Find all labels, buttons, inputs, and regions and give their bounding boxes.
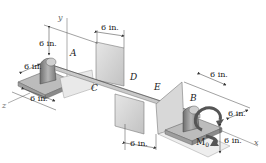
z-axis: z (1, 93, 30, 110)
point-c-label: C (91, 83, 98, 93)
svg-text:6 in.: 6 in. (130, 139, 148, 148)
svg-text:6 in.: 6 in. (101, 23, 119, 32)
svg-text:6 in.: 6 in. (39, 39, 57, 48)
dimension-a-depth: 6 in. (22, 62, 42, 72)
point-d-label: D (129, 72, 137, 82)
plate-c (96, 42, 124, 86)
plate-d (115, 94, 144, 134)
dimension-b-right-upper: 6 in. (228, 109, 248, 118)
y-axis-label: y (57, 13, 63, 22)
svg-text:6 in.: 6 in. (30, 94, 48, 103)
shaft-diagram: y z x (0, 0, 266, 163)
point-e-label: E (153, 82, 161, 92)
z-axis-label: z (1, 101, 7, 110)
dimension-a-vertical: 6 in. (39, 25, 97, 55)
svg-text:6 in.: 6 in. (228, 109, 246, 118)
moment-symbol: M (196, 137, 205, 147)
svg-text:6 in.: 6 in. (224, 136, 242, 145)
svg-text:6 in.: 6 in. (210, 70, 228, 79)
x-axis-label: x (254, 138, 259, 147)
moment-subscript: 0 (205, 141, 209, 148)
point-a-label: A (69, 48, 77, 58)
point-b-label: B (189, 93, 197, 103)
svg-text:6 in.: 6 in. (24, 62, 42, 71)
